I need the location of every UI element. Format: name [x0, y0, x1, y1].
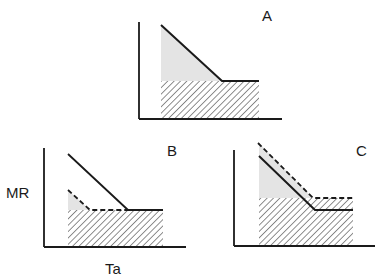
curve-solid-b [68, 154, 163, 210]
y-axis-label: MR [6, 184, 29, 201]
panel-label-c: C [356, 142, 367, 159]
panel-label-a: A [262, 7, 272, 24]
hatched-region-a [161, 81, 259, 119]
panel-b: B [44, 142, 186, 247]
figure: A B C MR Ta [0, 0, 382, 277]
hatched-region-c [259, 198, 353, 246]
panel-label-b: B [167, 142, 177, 159]
x-axis-label: Ta [105, 260, 122, 277]
hatched-region-b [68, 210, 163, 247]
panel-a: A [139, 7, 282, 119]
panel-c: C [234, 142, 375, 246]
